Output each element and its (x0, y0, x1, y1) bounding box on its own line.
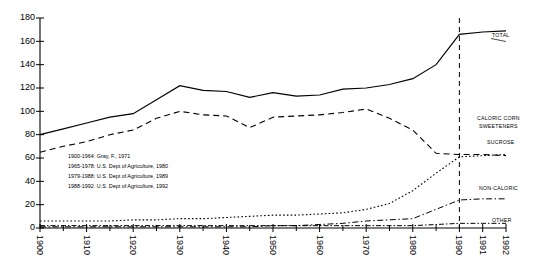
x-tick-1950: 1950 (268, 235, 278, 255)
x-tick-1930: 1930 (175, 235, 185, 255)
series-label-sucrose: SUCROSE (487, 139, 515, 145)
x-tick-1910: 1910 (82, 235, 92, 255)
series-label-non-caloric: NON-CALORIC (479, 185, 518, 191)
y-tick-60: 60 (25, 152, 35, 162)
x-tick-1980: 1980 (408, 235, 418, 255)
x-tick-1920: 1920 (128, 235, 138, 255)
source-line-3: 1979-1988: U.S. Dept of Agriculture, 198… (68, 173, 168, 179)
y-tick-0: 0 (30, 222, 35, 232)
series-line-sucrose (40, 109, 506, 156)
x-tick-1960: 1960 (315, 235, 325, 255)
total-leader (491, 39, 506, 42)
x-tick-1900: 1900 (35, 235, 45, 255)
sugar-consumption-chart: 0 20 40 60 80 100 120 140 160 180 1900 1… (0, 0, 539, 276)
y-tick-20: 20 (25, 199, 35, 209)
series-label-total: TOTAL (492, 32, 510, 38)
y-tick-180: 180 (20, 12, 35, 22)
source-line-2: 1965-1978: U.S. Dept of Agriculture, 198… (68, 163, 168, 169)
series-label-caloric-corn-line1: CALORIC CORN (477, 115, 520, 121)
y-tick-160: 160 (20, 36, 35, 46)
y-tick-80: 80 (25, 129, 35, 139)
x-tick-1991: 1991 (478, 235, 488, 255)
chart-svg: 0 20 40 60 80 100 120 140 160 180 1900 1… (0, 0, 539, 276)
source-line-4: 1988-1992: U.S. Dept of Agriculture, 199… (68, 183, 168, 189)
y-tick-100: 100 (20, 106, 35, 116)
x-tick-1992: 1992 (501, 235, 511, 255)
series-label-other: OTHER (492, 217, 511, 223)
y-tick-40: 40 (25, 176, 35, 186)
series-line-non-caloric (40, 199, 506, 227)
source-line-1: 1900-1964: Gray, F., 1971 (68, 153, 130, 159)
series-line-total (40, 31, 506, 135)
x-tick-1940: 1940 (221, 235, 231, 255)
y-tick-140: 140 (20, 59, 35, 69)
y-tick-120: 120 (20, 82, 35, 92)
series-label-caloric-corn-line2: SWEETENERS (479, 123, 518, 129)
x-tick-1970: 1970 (361, 235, 371, 255)
x-tick-1990: 1990 (454, 235, 464, 255)
